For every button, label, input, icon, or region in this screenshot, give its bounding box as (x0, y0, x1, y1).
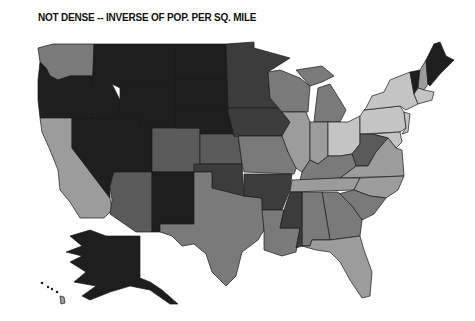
state-montana (102, 44, 175, 88)
state-new-mexico (152, 172, 194, 232)
state-alaska (66, 230, 178, 304)
us-choropleth-map (0, 0, 475, 321)
state-arizona (110, 172, 152, 232)
state-tennessee (290, 178, 360, 192)
state-maine (426, 42, 454, 86)
state-indiana (310, 122, 328, 164)
state-pennsylvania (360, 106, 406, 134)
state-iowa (228, 108, 290, 136)
state-north-dakota (175, 44, 228, 78)
state-hawaii (41, 282, 65, 304)
state-colorado (152, 128, 200, 172)
state-kansas (200, 134, 242, 164)
state-massachusetts (414, 88, 434, 104)
state-florida (302, 236, 372, 298)
state-new-york (364, 72, 418, 110)
state-south-dakota (175, 78, 228, 112)
